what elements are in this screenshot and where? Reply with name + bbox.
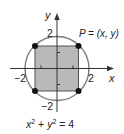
y-axis-label: y xyxy=(44,9,52,21)
y-tick-label-pos: 2 xyxy=(47,27,53,39)
eq-rhs: = 4 xyxy=(56,118,74,130)
y-tick-label-neg: −2 xyxy=(41,100,53,112)
corner-point xyxy=(76,88,82,94)
x-tick-label-neg: −2 xyxy=(14,72,26,84)
eq-plus: + xyxy=(35,118,47,130)
circle-equation: x2 + y2 = 4 xyxy=(25,118,74,130)
corner-point xyxy=(32,43,38,49)
x-tick-label-pos: 2 xyxy=(88,72,94,84)
corner-point xyxy=(32,88,38,94)
x-axis-arrow-icon xyxy=(107,66,114,71)
x-axis-label: x xyxy=(108,72,115,84)
y-axis-arrow-icon xyxy=(54,13,59,20)
corner-point-P xyxy=(76,43,82,49)
circle-square-diagram: y x 2 −2 −2 2 P = (x, y) x2 + y2 = 4 xyxy=(0,0,124,134)
point-label: P = (x, y) xyxy=(79,28,119,39)
